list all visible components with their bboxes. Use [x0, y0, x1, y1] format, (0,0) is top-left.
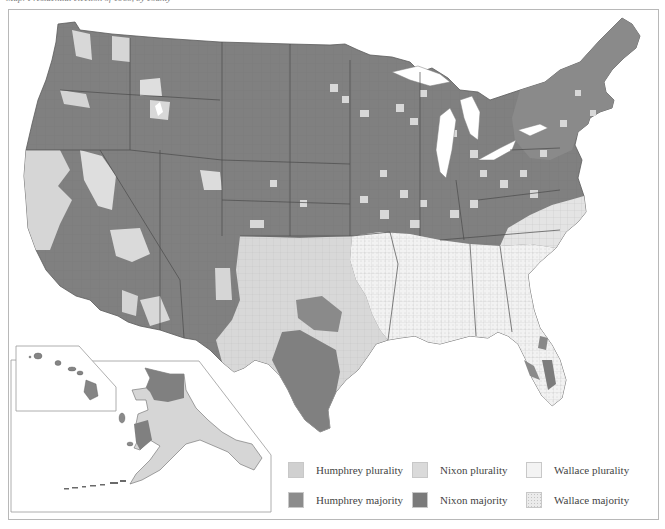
us-county-map	[0, 0, 665, 529]
legend-label: Wallace plurality	[554, 464, 629, 476]
swatch-humphrey-plurality	[288, 462, 304, 478]
swatch-nixon-majority	[412, 492, 428, 508]
legend-item-wallace-majority: Wallace majority	[526, 490, 629, 510]
legend-item-humphrey-plurality: Humphrey plurality	[288, 460, 403, 480]
inset-frame-hawaii	[16, 346, 116, 411]
legend-label: Nixon majority	[440, 494, 508, 506]
legend-label: Wallace majority	[554, 494, 629, 506]
legend-label: Humphrey majority	[316, 494, 403, 506]
swatch-nixon-plurality	[412, 462, 428, 478]
swatch-wallace-plurality	[526, 462, 542, 478]
swatch-wallace-majority	[526, 492, 542, 508]
legend-label: Humphrey plurality	[316, 464, 403, 476]
legend-item-wallace-plurality: Wallace plurality	[526, 460, 629, 480]
legend-item-humphrey-majority: Humphrey majority	[288, 490, 403, 510]
swatch-humphrey-majority	[288, 492, 304, 508]
map-legend: Humphrey plurality Nixon plurality Walla…	[288, 460, 658, 510]
alaska-hawaii-inset	[11, 346, 271, 512]
legend-label: Nixon plurality	[440, 464, 508, 476]
legend-item-nixon-plurality: Nixon plurality	[412, 460, 508, 480]
legend-item-nixon-majority: Nixon majority	[412, 490, 508, 510]
